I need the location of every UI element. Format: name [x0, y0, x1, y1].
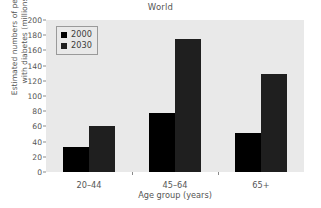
legend-swatch-icon-2030: [61, 43, 67, 49]
y-tick-label: 180: [28, 31, 43, 40]
chart-figure: World Estimated numbers of people with d…: [0, 0, 321, 208]
chart-title: World: [0, 2, 321, 12]
y-tick-mark: [43, 35, 46, 36]
y-tick-mark: [43, 20, 46, 21]
y-tick-label: 80: [32, 107, 42, 116]
y-tick-mark: [43, 50, 46, 51]
bar-2030-45–64: [175, 39, 201, 172]
legend-label-2030: 2030: [71, 40, 92, 51]
x-tick-mark: [218, 172, 219, 175]
y-tick-mark: [43, 156, 46, 157]
bar-2000-20–44: [63, 147, 89, 172]
y-tick-label: 140: [28, 61, 43, 70]
y-axis-title-line1: Estimated numbers of people: [10, 0, 20, 95]
legend-label-2000: 2000: [71, 29, 92, 40]
y-tick-mark: [43, 65, 46, 66]
y-tick-mark: [43, 141, 46, 142]
bar-2000-65+: [235, 133, 261, 172]
y-tick-label: 200: [28, 16, 43, 25]
y-tick-mark: [43, 126, 46, 127]
x-axis-title: Age group (years): [46, 190, 304, 200]
bar-2030-20–44: [89, 126, 115, 172]
y-tick-label: 60: [32, 122, 42, 131]
plot-area: 020406080100120140160180200 20–4445–6465…: [46, 20, 304, 172]
bar-2030-65+: [261, 74, 287, 172]
legend-item-2000: 2000: [61, 29, 92, 40]
bar-2000-45–64: [149, 113, 175, 172]
y-tick-label: 120: [28, 76, 43, 85]
x-tick-mark: [132, 172, 133, 175]
y-tick-mark: [43, 172, 46, 173]
x-tick-label: 65+: [252, 180, 269, 190]
y-tick-label: 160: [28, 46, 43, 55]
legend: 2000 2030: [56, 26, 98, 55]
y-tick-label: 100: [28, 92, 43, 101]
x-tick-label: 45–64: [163, 180, 188, 190]
y-tick-label: 40: [32, 137, 42, 146]
y-tick-mark: [43, 80, 46, 81]
y-tick-label: 20: [32, 152, 42, 161]
y-tick-mark: [43, 111, 46, 112]
legend-swatch-icon-2000: [61, 32, 67, 38]
y-tick-mark: [43, 96, 46, 97]
x-tick-label: 20–44: [77, 180, 102, 190]
y-tick-label: 0: [37, 168, 42, 177]
legend-item-2030: 2030: [61, 40, 92, 51]
